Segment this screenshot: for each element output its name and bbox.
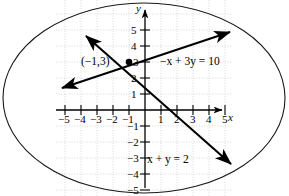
y-axis-label: y bbox=[136, 3, 141, 14]
intersection-point-label: (−1,3) bbox=[81, 56, 110, 68]
intersection-point-marker bbox=[126, 59, 133, 66]
y-tick-label-neg4: −4 bbox=[127, 169, 139, 180]
x-tick-label-3: 3 bbox=[190, 114, 196, 125]
y-tick-label-1: 1 bbox=[131, 89, 137, 100]
x-tick-label-neg4: −4 bbox=[74, 114, 86, 125]
x-tick-label-neg3: −3 bbox=[90, 114, 102, 125]
y-tick-label-neg2: −2 bbox=[127, 137, 139, 148]
x-tick-label-2: 2 bbox=[174, 114, 180, 125]
equation-label-bottom: x + y = 2 bbox=[147, 154, 189, 166]
y-tick-label-3: 3 bbox=[133, 57, 139, 68]
x-axis-label: x bbox=[228, 112, 233, 123]
x-tick-label-1: 1 bbox=[158, 114, 164, 125]
y-tick-label-neg5: −5 bbox=[127, 185, 139, 196]
y-tick-label-2: 2 bbox=[131, 73, 137, 84]
x-tick-label-5: 5 bbox=[222, 114, 228, 125]
x-tick-label-neg2: −2 bbox=[106, 114, 118, 125]
x-tick-label-neg5: −5 bbox=[58, 114, 70, 125]
graph-figure: −5 −4 −3 −2 −1 1 2 3 4 5 5 4 3 2 1 −1 −2… bbox=[0, 0, 289, 196]
x-tick-label-4: 4 bbox=[206, 114, 212, 125]
y-tick-label-5: 5 bbox=[131, 25, 137, 36]
y-tick-label-neg1: −1 bbox=[127, 121, 139, 132]
enclosing-ellipse bbox=[3, 3, 285, 193]
y-tick-label-neg3: −3 bbox=[127, 153, 139, 164]
graph-canvas bbox=[0, 0, 289, 196]
y-tick-label-4: 4 bbox=[131, 41, 137, 52]
equation-label-top: −x + 3y = 10 bbox=[160, 56, 220, 68]
